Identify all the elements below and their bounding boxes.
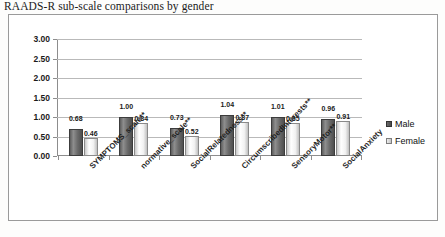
legend-label-male: Male: [395, 119, 415, 129]
x-axis-label-1: normative_scale**: [139, 164, 145, 170]
y-axis-tick-label: 3.00: [33, 34, 50, 44]
x-axis-tick: [58, 156, 59, 160]
bar-group: 0.680.46: [58, 39, 109, 156]
legend-swatch-female-icon: [386, 138, 392, 144]
bar-value-label: 0.96: [321, 105, 335, 112]
legend: Male Female: [386, 119, 425, 153]
x-axis-label-4: SensoryMotor**: [290, 164, 296, 170]
x-axis-tick: [210, 156, 211, 160]
y-axis-tick: [53, 137, 57, 138]
y-axis-tick: [53, 156, 57, 157]
page-title: RAADS-R sub-scale comparisons by gender: [4, 0, 214, 13]
legend-item-male[interactable]: Male: [386, 119, 425, 129]
bar-value-label: 0.91: [336, 113, 350, 120]
bar-female-0[interactable]: [84, 138, 98, 156]
y-axis-tick: [53, 78, 57, 79]
x-axis-tick: [311, 156, 312, 160]
legend-item-female[interactable]: Female: [386, 136, 425, 146]
bar-female-2[interactable]: [185, 136, 199, 156]
x-axis-label-5: SocialAnxiety: [341, 164, 347, 170]
y-axis-tick-label: 2.50: [33, 54, 50, 64]
x-axis-label-0: SYMPTOMS_scale**: [88, 164, 94, 170]
x-axis-label-3: CircumscribedInterests**: [240, 164, 246, 170]
bar-male-0[interactable]: [69, 129, 83, 156]
y-axis-tick-label: 1.00: [33, 112, 50, 122]
y-axis-tick: [53, 98, 57, 99]
y-axis-tick-label: 1.50: [33, 93, 50, 103]
bar-female-5[interactable]: [336, 121, 350, 156]
x-axis-tick: [109, 156, 110, 160]
legend-label-female: Female: [395, 136, 425, 146]
chart-frame: 0.000.501.001.502.002.503.00 0.680.461.0…: [8, 14, 438, 221]
x-axis-label-2: SocialRelatedness**: [189, 164, 195, 170]
bar-value-label: 1.01: [271, 103, 285, 110]
y-axis-tick: [53, 117, 57, 118]
bar-value-label: 0.46: [84, 130, 98, 137]
bar-value-label: 0.68: [69, 115, 83, 122]
bar-value-label: 1.04: [220, 101, 234, 108]
y-axis-tick-label: 0.50: [33, 132, 50, 142]
y-axis-tick-label: 0.00: [33, 151, 50, 161]
y-axis-tick: [53, 59, 57, 60]
bar-value-label: 0.73: [170, 114, 184, 121]
y-axis-tick: [53, 39, 57, 40]
bar-value-label: 1.00: [119, 103, 133, 110]
legend-swatch-male-icon: [386, 121, 392, 127]
y-axis-tick-label: 2.00: [33, 73, 50, 83]
